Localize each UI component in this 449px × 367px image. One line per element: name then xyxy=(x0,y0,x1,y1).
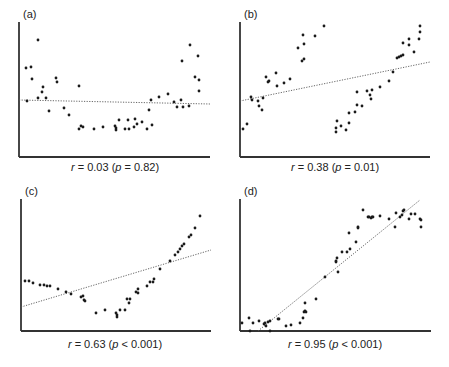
data-point xyxy=(102,126,105,129)
data-point xyxy=(285,325,288,328)
data-point xyxy=(371,89,374,92)
data-point xyxy=(84,300,87,303)
data-point xyxy=(55,77,58,80)
data-point xyxy=(153,278,156,281)
data-point xyxy=(419,31,422,34)
data-point xyxy=(283,82,286,85)
data-point xyxy=(199,215,202,218)
data-point xyxy=(348,232,351,235)
data-point xyxy=(146,128,149,131)
data-point xyxy=(30,66,33,69)
data-point xyxy=(146,285,149,288)
data-point xyxy=(25,67,28,70)
caption-b: r = 0.38 (p = 0.01) xyxy=(291,161,379,173)
data-point xyxy=(408,44,411,47)
data-point xyxy=(341,251,344,254)
data-point xyxy=(246,123,249,126)
data-point xyxy=(402,54,405,57)
data-point xyxy=(337,271,340,274)
data-point xyxy=(136,123,139,126)
panel-label-a: (a) xyxy=(23,8,36,20)
data-point xyxy=(361,105,364,108)
data-point xyxy=(261,109,264,112)
data-point xyxy=(104,309,107,312)
data-point xyxy=(56,81,59,84)
data-point xyxy=(251,99,254,102)
data-point xyxy=(151,124,154,127)
data-point xyxy=(128,128,131,131)
data-point xyxy=(303,43,306,46)
data-point xyxy=(137,292,140,295)
caption-c: r = 0.63 (p < 0.001) xyxy=(68,338,162,350)
data-point xyxy=(248,317,251,320)
data-point xyxy=(264,322,267,325)
data-point xyxy=(198,90,201,93)
data-point xyxy=(149,281,152,284)
data-point xyxy=(26,100,29,103)
data-point xyxy=(177,251,180,254)
data-point xyxy=(182,106,185,109)
data-point xyxy=(68,114,71,117)
data-point xyxy=(37,39,40,42)
data-point xyxy=(41,91,44,94)
data-point xyxy=(268,80,271,83)
data-point xyxy=(348,122,351,125)
data-point xyxy=(197,55,200,58)
data-point xyxy=(355,241,358,244)
data-point xyxy=(410,213,413,216)
r-value: = 0.63 ( xyxy=(72,338,113,350)
scatter-plots-canvas xyxy=(0,0,449,367)
data-point xyxy=(241,322,244,325)
data-point xyxy=(354,111,357,114)
r-value: = 0.03 ( xyxy=(75,161,116,173)
regression-line xyxy=(21,250,211,307)
data-point xyxy=(93,128,96,131)
data-point xyxy=(189,44,192,47)
data-point xyxy=(28,280,31,283)
panel-label-b: (b) xyxy=(244,8,257,20)
data-point xyxy=(345,129,348,132)
data-point xyxy=(356,104,359,107)
data-point xyxy=(249,330,252,333)
data-point xyxy=(118,119,121,122)
data-point xyxy=(252,322,255,325)
panel-label-d: (d) xyxy=(244,185,257,197)
data-point xyxy=(78,85,81,88)
data-point xyxy=(414,213,417,216)
data-point xyxy=(362,209,365,212)
data-point xyxy=(42,86,45,89)
data-point xyxy=(323,25,326,28)
data-point xyxy=(49,285,52,288)
data-point xyxy=(65,291,68,294)
data-point xyxy=(366,90,369,93)
data-point xyxy=(420,226,423,229)
data-point xyxy=(302,34,305,37)
data-point xyxy=(128,302,131,305)
r-value: = 0.95 ( xyxy=(292,338,333,350)
data-point xyxy=(257,100,260,103)
data-point xyxy=(303,58,306,61)
data-point xyxy=(324,276,327,279)
data-point xyxy=(150,99,153,102)
data-point xyxy=(194,76,197,79)
data-point xyxy=(32,282,35,285)
data-point xyxy=(181,245,184,248)
data-point xyxy=(336,257,339,260)
data-point xyxy=(262,97,265,100)
data-point xyxy=(265,76,268,79)
data-point xyxy=(198,79,201,82)
data-point xyxy=(43,284,46,287)
data-point xyxy=(399,216,402,219)
caption-a: r = 0.03 (p = 0.82) xyxy=(71,161,159,173)
data-point xyxy=(188,236,191,239)
p-value: = 0.82) xyxy=(121,161,159,173)
data-point xyxy=(82,295,85,298)
data-point xyxy=(403,209,406,212)
data-point xyxy=(116,316,119,319)
p-value: < 0.001) xyxy=(338,338,382,350)
data-point xyxy=(180,99,183,102)
data-point xyxy=(148,109,151,112)
data-point xyxy=(408,38,411,41)
data-point xyxy=(124,128,127,131)
data-point xyxy=(70,293,73,296)
